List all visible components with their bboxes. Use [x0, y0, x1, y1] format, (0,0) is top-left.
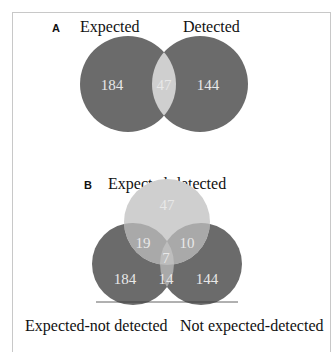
region-right-only: 144 [196, 271, 219, 287]
set-label-detected: Detected [183, 18, 240, 35]
region-top-right: 10 [180, 235, 195, 251]
set-label-expected-not-detected: Expected-not detected [25, 317, 168, 335]
panel-b-letter: B [84, 179, 92, 191]
region-top-only: 47 [160, 197, 176, 213]
region-detected-only: 144 [197, 77, 220, 93]
set-label-expected: Expected [80, 18, 140, 36]
region-overlap: 47 [157, 77, 173, 93]
region-top-left: 19 [136, 235, 151, 251]
region-center: 7 [162, 250, 170, 266]
region-expected-only: 184 [101, 77, 124, 93]
panel-a-letter: A [52, 22, 60, 34]
panel-b: B Expected-detected 47 19 10 7 14 184 14… [25, 175, 323, 335]
set-label-not-expected-detected: Not expected-detected [180, 317, 323, 335]
region-bottom-center: 14 [159, 271, 175, 287]
panel-a: A Expected Detected 184 47 144 [52, 18, 248, 132]
region-left-only: 184 [114, 271, 137, 287]
